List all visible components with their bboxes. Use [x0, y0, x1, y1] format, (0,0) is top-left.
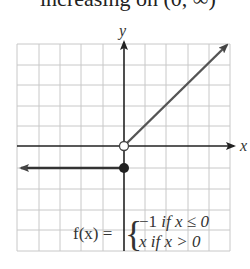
fx-label: f(x) = [73, 224, 112, 243]
piece2-text: x if x > 0 [138, 232, 201, 251]
closed-dot [119, 163, 129, 173]
x-axis-label: x [239, 137, 247, 154]
piece-identity [127, 45, 227, 143]
graph: x y f(x) = { −1 if x ≤ 0 x if x > 0 [0, 0, 250, 269]
open-circle [120, 142, 129, 151]
y-axis-label: y [117, 22, 127, 40]
piece1-text: −1 if x ≤ 0 [139, 212, 209, 231]
